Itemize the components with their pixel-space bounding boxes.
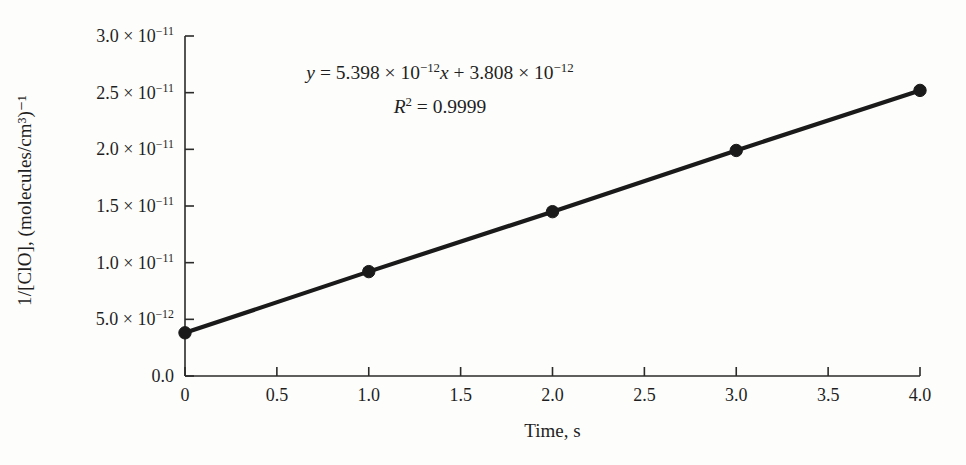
figure-canvas: 1/[ClO], (molecules/cm³)⁻¹ 3.0 × 10−112.… bbox=[0, 0, 966, 465]
plot-area bbox=[0, 0, 966, 465]
data-point-markers bbox=[179, 84, 926, 339]
